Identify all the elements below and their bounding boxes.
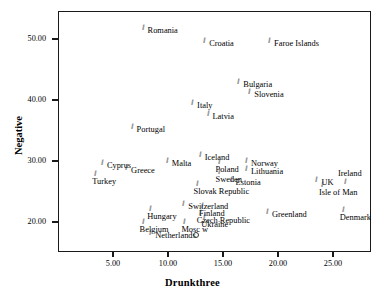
- point-label: Lithuania: [251, 167, 283, 176]
- point-label: Turkey: [92, 177, 116, 186]
- point-label: Romania: [148, 26, 178, 35]
- y-tick-label: 20.00: [6, 217, 46, 226]
- point-label: Greenland: [272, 210, 307, 219]
- x-tick-label: 20.00: [256, 259, 300, 268]
- point-label: Isle of Man: [319, 188, 358, 197]
- point-label: Ireland: [338, 169, 362, 178]
- scatter-chart: 50.0040.0030.0020.00 5.0010.0015.0020.00…: [0, 0, 385, 296]
- y-tick-mark: [52, 160, 59, 162]
- point-label: Portugal: [137, 125, 165, 134]
- x-tick-mark: [277, 251, 279, 257]
- y-tick-mark: [52, 99, 59, 101]
- point-label: Latvia: [213, 112, 234, 121]
- y-tick-mark: [52, 38, 59, 40]
- x-tick-mark: [332, 251, 334, 257]
- x-tick-label: 10.00: [146, 259, 190, 268]
- point-label: Netherlands: [155, 231, 195, 240]
- x-tick-label: 25.00: [311, 259, 355, 268]
- x-tick-mark: [167, 251, 169, 257]
- x-axis-title: Drunkthree: [0, 277, 385, 288]
- x-tick-mark: [222, 251, 224, 257]
- point-label: Slovenia: [254, 90, 283, 99]
- point-label: Malta: [172, 159, 192, 168]
- point-label: Estonia: [236, 178, 261, 187]
- point-label: Hungary: [147, 212, 176, 221]
- point-label: Denmark: [340, 213, 371, 222]
- y-tick-mark: [52, 221, 59, 223]
- point-label: Greece: [131, 166, 155, 175]
- point-label: Faroe Islands: [274, 39, 319, 48]
- y-tick-label: 50.00: [6, 34, 46, 43]
- x-tick-mark: [112, 251, 114, 257]
- point-label: Iceland: [205, 153, 230, 162]
- y-axis-title: Negative: [13, 96, 24, 176]
- x-tick-label: 15.00: [201, 259, 245, 268]
- x-tick-label: 5.00: [91, 259, 135, 268]
- point-label: Slovak Republic: [194, 187, 250, 196]
- point-label: Croatia: [209, 39, 234, 48]
